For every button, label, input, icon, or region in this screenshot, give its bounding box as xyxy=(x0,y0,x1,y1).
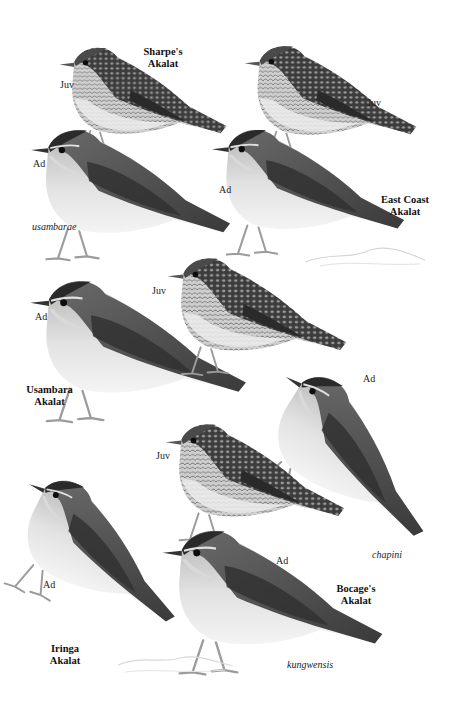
age-label-juv: Juv xyxy=(156,450,170,462)
age-label-ad: Ad xyxy=(43,579,55,591)
subspecies-label-usambarae: usambarae xyxy=(32,221,76,232)
illustration-plate: Juv Sharpe's Akalat Juv Ad usambarae Ad … xyxy=(0,0,462,720)
species-name-sharpes: Sharpe's Akalat xyxy=(138,46,188,70)
species-name-iringa: Iringa Akalat xyxy=(45,643,85,667)
age-label-ad: Ad xyxy=(363,373,375,385)
species-name-usambara: Usambara Akalat xyxy=(22,384,77,408)
subspecies-label-kungwensis: kungwensis xyxy=(287,659,333,670)
sharpes-akalat-adult-usambarae-illustration xyxy=(28,123,233,268)
age-label-ad: Ad xyxy=(35,311,47,323)
age-label-ad: Ad xyxy=(33,158,45,170)
age-label-ad: Ad xyxy=(276,555,288,567)
species-name-east-coast: East Coast Akalat xyxy=(375,194,435,218)
species-name-bocages: Bocage's Akalat xyxy=(330,583,382,607)
age-label-juv: Juv xyxy=(60,79,74,91)
ground-sketch xyxy=(115,650,235,680)
age-label-ad: Ad xyxy=(219,184,231,196)
age-label-juv: Juv xyxy=(152,285,166,297)
age-label-juv: Juv xyxy=(367,97,381,109)
